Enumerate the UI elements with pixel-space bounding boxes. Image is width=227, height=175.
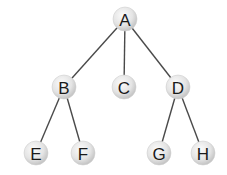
tree-diagram: ABCDEFGH xyxy=(0,0,227,175)
node-label: H xyxy=(197,145,209,164)
node-label: G xyxy=(152,145,165,164)
node-label: F xyxy=(78,145,88,164)
node-label: C xyxy=(118,79,130,98)
node-a: A xyxy=(113,7,137,31)
node-h: H xyxy=(191,141,215,165)
node-g: G xyxy=(147,141,171,165)
node-label: B xyxy=(58,79,69,98)
node-b: B xyxy=(52,75,76,99)
node-d: D xyxy=(166,75,190,99)
edge-a-b xyxy=(64,19,125,87)
node-f: F xyxy=(71,141,95,165)
nodes-layer: ABCDEFGH xyxy=(24,7,215,165)
node-e: E xyxy=(24,141,48,165)
node-label: D xyxy=(172,79,184,98)
node-label: E xyxy=(30,145,41,164)
node-label: A xyxy=(119,11,131,30)
node-c: C xyxy=(112,75,136,99)
edge-a-d xyxy=(125,19,178,87)
